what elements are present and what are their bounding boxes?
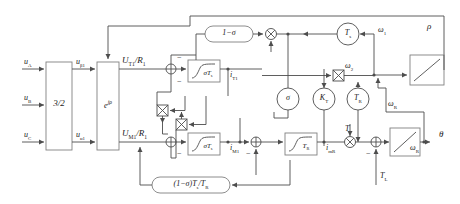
block-label-sigma-gain: σ — [277, 94, 299, 102]
signal-label-um1-over-r1: UM1/R1 — [122, 129, 147, 140]
block-label-sigma-ts-top: σTs — [196, 70, 220, 79]
signal-label-rho: ρ — [427, 22, 431, 31]
input-label-ub: uB — [24, 94, 31, 105]
sign-minus-mechanical-sum: − — [366, 150, 371, 158]
sign-minus-rotor-flux-sum: − — [246, 150, 251, 158]
block-label-sigma-ts-bottom: σTs — [196, 143, 220, 152]
sign-minus-top-sum-upper: − — [177, 54, 182, 62]
block-diagram-canvas: uA uB uC TL θ 3/2 ejρ 1−σ σTs σTs TR Ts … — [0, 0, 460, 204]
signal-label-omega2: ω2 — [345, 62, 353, 73]
block-label-ts-gain: Ts — [337, 29, 359, 40]
block-label-one-minus-sigma: 1−σ — [205, 29, 253, 37]
signal-label-omega-r: ωR — [410, 144, 419, 155]
block-label-kt-gain: KT — [313, 94, 335, 105]
signal-label-omega1: ω1 — [378, 26, 386, 37]
signal-label-ut1-over-r1: UT1/R1 — [122, 56, 146, 67]
input-label-ua: uA — [24, 58, 32, 69]
signal-label-imr: imR — [326, 144, 335, 155]
input-label-tl: TL — [380, 172, 387, 183]
signal-label-u-alpha1: uα1 — [76, 131, 85, 142]
block-label-one-minus-sigma-ts-over-tr: (1−σ)Ts/TR — [152, 180, 230, 191]
sign-minus-top-sum-lower: − — [177, 78, 182, 86]
output-label-theta: θ — [439, 130, 443, 139]
block-label-tr-integrator: TR — [295, 143, 317, 152]
signal-label-it1: iT1 — [230, 71, 238, 82]
signal-label-omega-r-feedback: ωR — [388, 100, 397, 111]
signal-label-im1: iM1 — [230, 144, 239, 155]
block-label-rotation: ejρ — [97, 100, 119, 110]
sign-minus-bottom-sum: − — [177, 150, 182, 158]
block-label-tr-gain: TR — [347, 94, 369, 105]
input-label-uc: uC — [24, 131, 31, 142]
signal-label-u-beta1: uβ1 — [76, 58, 85, 69]
block-label-three-to-two: 3/2 — [46, 99, 72, 108]
signal-label-torque: T — [345, 125, 349, 133]
